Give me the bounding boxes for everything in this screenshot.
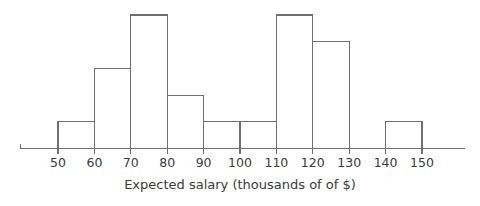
x-axis-title: Expected salary (thousands of of $) (124, 177, 356, 192)
x-axis-tick-marks (58, 149, 422, 154)
x-tick-label: 70 (123, 155, 139, 170)
x-tick-label: 150 (410, 155, 434, 170)
histogram-bar (131, 15, 167, 149)
histogram-figure: 50 60 70 80 90 100 110 120 130 140 150 E… (0, 0, 480, 206)
x-tick-label: 50 (50, 155, 66, 170)
histogram-bar (313, 42, 349, 149)
histogram-bar (240, 122, 276, 149)
histogram-bar (94, 68, 130, 148)
bars-group (58, 15, 422, 149)
x-tick-label: 110 (264, 155, 288, 170)
x-axis-tick-labels: 50 60 70 80 90 100 110 120 130 140 150 (50, 155, 434, 170)
x-tick-label: 130 (337, 155, 361, 170)
x-tick-label: 100 (228, 155, 252, 170)
histogram-bar (167, 95, 203, 148)
chart-canvas: 50 60 70 80 90 100 110 120 130 140 150 E… (0, 0, 480, 206)
x-tick-label: 80 (159, 155, 175, 170)
x-tick-label: 60 (86, 155, 102, 170)
histogram-bar (58, 122, 94, 149)
x-tick-label: 140 (374, 155, 398, 170)
x-tick-label: 120 (301, 155, 325, 170)
histogram-bar (204, 122, 240, 149)
histogram-bar (276, 15, 312, 149)
histogram-bar (386, 122, 422, 149)
x-tick-label: 90 (196, 155, 212, 170)
